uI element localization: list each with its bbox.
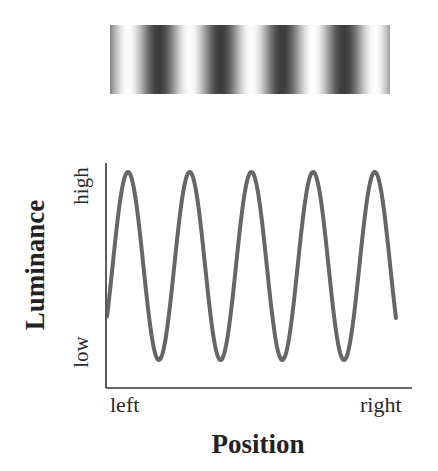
luminance-curve <box>107 172 396 360</box>
y-tick-low: low <box>69 336 94 368</box>
y-tick-high: high <box>69 167 94 204</box>
x-tick-left: left <box>110 392 139 418</box>
y-axis-title: Luminance <box>20 200 51 331</box>
x-tick-right: right <box>360 392 402 418</box>
luminance-figure: Luminance high low left right Position <box>0 0 438 471</box>
x-axis-title: Position <box>211 429 304 460</box>
